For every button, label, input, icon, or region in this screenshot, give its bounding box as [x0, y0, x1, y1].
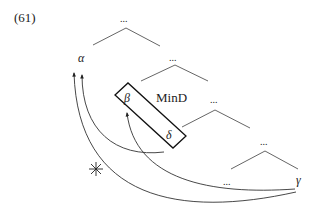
third-ellipsis-node: ... — [210, 94, 218, 105]
bottom-ellipsis-node: ... — [223, 176, 231, 187]
delta-node: δ — [166, 128, 172, 142]
arrow-delta-to-alpha — [82, 75, 164, 153]
blocked-star-icon — [89, 162, 103, 176]
fourth-ellipsis-node: ... — [260, 136, 268, 147]
alpha-node: α — [78, 51, 85, 65]
mind-label: MinD — [156, 90, 187, 105]
syntax-tree-diagram: (61) ... α ... ... ... ... γ β δ MinD — [0, 0, 318, 217]
gamma-node: γ — [296, 173, 301, 187]
beta-node: β — [123, 91, 130, 105]
example-number: (61) — [14, 10, 36, 25]
top-ellipsis-node: ... — [120, 13, 128, 24]
arrow-gamma-to-beta — [127, 113, 295, 190]
second-ellipsis-node: ... — [169, 52, 177, 63]
